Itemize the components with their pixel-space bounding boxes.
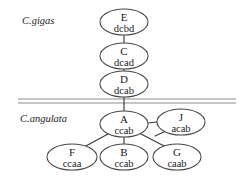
- node-d[interactable]: Ddcab: [100, 71, 148, 97]
- species-label-gigas: C.gigas: [22, 15, 54, 26]
- edge-a-j: [148, 122, 157, 123]
- node-label-g: G: [173, 146, 181, 158]
- node-f[interactable]: Fccaa: [47, 144, 97, 170]
- species-label-group: C.gigasC.angulata: [20, 15, 67, 124]
- node-e[interactable]: Edcbd: [100, 9, 148, 35]
- species-divider: [18, 99, 236, 103]
- node-label-e: E: [121, 11, 128, 23]
- node-g[interactable]: Gcaab: [153, 144, 201, 170]
- network-canvas: EdcbdCdcadDdcabAccabJacabFccaaBccabGcaab…: [0, 0, 246, 180]
- node-label-a: A: [120, 113, 128, 125]
- node-code-j: acab: [171, 123, 190, 134]
- node-c[interactable]: Cdcad: [100, 43, 148, 69]
- node-label-d: D: [120, 73, 128, 85]
- node-label-b: B: [120, 146, 127, 158]
- node-b[interactable]: Bccab: [100, 144, 148, 170]
- node-code-b: ccab: [114, 158, 133, 169]
- edge-a-f: [84, 134, 108, 147]
- node-label-c: C: [120, 45, 127, 57]
- node-code-d: dcab: [114, 85, 134, 96]
- edge-a-g: [141, 134, 166, 147]
- node-code-e: dcbd: [114, 23, 135, 34]
- node-code-g: caab: [167, 158, 186, 169]
- node-label-f: F: [69, 146, 75, 158]
- node-group: EdcbdCdcadDdcabAccabJacabFccaaBccabGcaab: [47, 9, 205, 170]
- node-j[interactable]: Jacab: [157, 109, 205, 135]
- node-code-a: ccab: [114, 125, 133, 136]
- haplotype-network-figure: EdcbdCdcadDdcabAccabJacabFccaaBccabGcaab…: [0, 0, 246, 180]
- node-code-f: ccaa: [63, 158, 82, 169]
- node-label-j: J: [179, 111, 184, 123]
- node-code-c: dcad: [114, 57, 135, 68]
- species-label-angulata: C.angulata: [20, 113, 67, 124]
- node-a[interactable]: Accab: [100, 111, 148, 137]
